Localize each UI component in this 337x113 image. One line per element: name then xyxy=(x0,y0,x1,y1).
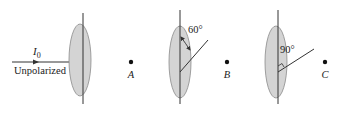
beam-arrow-icon xyxy=(33,60,39,65)
point-a-dot xyxy=(129,60,133,64)
point-c: C xyxy=(321,60,329,80)
unpolarized-label: Unpolarized xyxy=(14,65,67,76)
angle-label-90: 90° xyxy=(280,44,295,55)
polarizer-2: 60° xyxy=(169,10,208,104)
angle-label-60: 60° xyxy=(188,24,203,35)
polarizer-1 xyxy=(69,13,91,104)
polarizer-disk xyxy=(265,26,287,98)
point-a-label: A xyxy=(127,69,135,80)
point-b: B xyxy=(224,60,231,80)
polarizer-disk xyxy=(69,24,91,96)
intensity-label: I0 xyxy=(32,45,41,60)
point-c-dot xyxy=(323,60,327,64)
polarizer-3: 90° xyxy=(265,10,314,104)
point-b-label: B xyxy=(224,69,231,80)
polarizer-diagram: I0 Unpolarized A 60° B 90° C xyxy=(0,0,337,113)
point-a: A xyxy=(127,60,135,80)
point-c-label: C xyxy=(321,69,329,80)
point-b-dot xyxy=(225,60,229,64)
